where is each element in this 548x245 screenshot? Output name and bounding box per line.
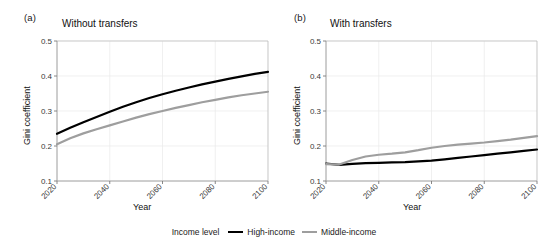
svg-text:0.2: 0.2 <box>41 142 53 151</box>
svg-text:2060: 2060 <box>414 182 433 201</box>
svg-text:0.3: 0.3 <box>310 107 322 116</box>
svg-text:0.5: 0.5 <box>310 37 322 46</box>
svg-text:0.5: 0.5 <box>41 37 53 46</box>
svg-text:2100: 2100 <box>519 182 538 201</box>
legend-title: Income level <box>172 227 220 237</box>
svg-text:0.2: 0.2 <box>310 142 322 151</box>
legend-label-high-income: High-income <box>247 227 295 237</box>
svg-text:2040: 2040 <box>92 182 111 201</box>
panel-with-transfers: (b) With transfers Gini coefficient Year… <box>274 0 548 218</box>
svg-text:0.4: 0.4 <box>310 72 322 81</box>
legend-item-high-income: High-income <box>228 227 295 237</box>
figure-container: (a) Without transfers Gini coefficient Y… <box>0 0 548 245</box>
legend: Income level High-income Middle-income <box>0 222 548 242</box>
svg-text:2060: 2060 <box>145 182 164 201</box>
svg-text:2080: 2080 <box>198 182 217 201</box>
panel-b-plot: 0.10.20.30.40.520202040206020802100 <box>274 0 548 218</box>
panel-a-plot: 0.10.20.30.40.520202040206020802100 <box>0 0 274 218</box>
legend-swatch-middle-income <box>302 231 317 234</box>
panel-without-transfers: (a) Without transfers Gini coefficient Y… <box>0 0 274 218</box>
svg-text:2040: 2040 <box>361 182 380 201</box>
svg-text:2080: 2080 <box>467 182 486 201</box>
svg-text:2100: 2100 <box>250 182 269 201</box>
svg-text:0.3: 0.3 <box>41 107 53 116</box>
svg-text:0.4: 0.4 <box>41 72 53 81</box>
legend-label-middle-income: Middle-income <box>321 227 376 237</box>
legend-item-middle-income: Middle-income <box>302 227 376 237</box>
legend-swatch-high-income <box>228 231 243 234</box>
